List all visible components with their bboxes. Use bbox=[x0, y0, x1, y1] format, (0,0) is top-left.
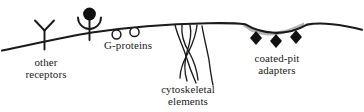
y-receptor bbox=[35, 21, 54, 50]
label-other-receptors-line1: other bbox=[10, 56, 82, 68]
label-cytoskeletal-line1: cytoskeletal bbox=[138, 83, 238, 95]
label-cytoskeletal-line2: elements bbox=[138, 95, 238, 107]
label-g-proteins: G-proteins bbox=[95, 39, 161, 51]
coated-pit-adapter bbox=[290, 30, 302, 44]
ligand-filled-circle bbox=[83, 8, 96, 21]
label-g-proteins-line1: G-proteins bbox=[95, 39, 161, 51]
membrane-schematic-figure: other receptors G-proteins coated-pit ad… bbox=[0, 0, 364, 112]
cytoskeletal-filaments bbox=[175, 25, 213, 85]
label-coated-pit-line2: adapters bbox=[232, 64, 322, 76]
g-protein-circle-1 bbox=[112, 30, 121, 39]
label-cytoskeletal-elements: cytoskeletal elements bbox=[138, 83, 238, 107]
cytoskeletal-filament bbox=[202, 26, 213, 85]
label-other-receptors-line2: receptors bbox=[10, 68, 82, 80]
label-other-receptors: other receptors bbox=[10, 56, 82, 80]
label-coated-pit-line1: coated-pit bbox=[232, 52, 322, 64]
g-protein-circle-2 bbox=[130, 27, 139, 36]
coated-pit-adapter bbox=[270, 34, 282, 48]
label-coated-pit-adapters: coated-pit adapters bbox=[232, 52, 322, 76]
